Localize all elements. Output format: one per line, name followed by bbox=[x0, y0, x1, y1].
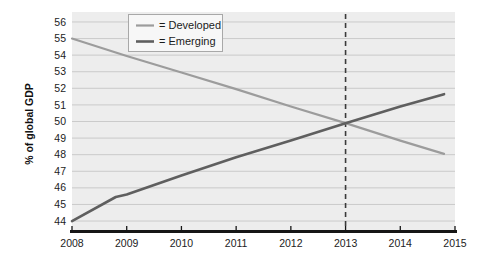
y-tick-47: 47 bbox=[54, 165, 66, 177]
y-tick-52: 52 bbox=[54, 82, 66, 94]
legend-label-developed: = Developed bbox=[159, 19, 221, 31]
x-tick-2012: 2012 bbox=[279, 237, 303, 249]
y-tick-55: 55 bbox=[54, 32, 66, 44]
x-tick-2015: 2015 bbox=[443, 237, 467, 249]
y-tick-44: 44 bbox=[54, 215, 66, 227]
x-tick-2010: 2010 bbox=[170, 237, 194, 249]
y-tick-54: 54 bbox=[54, 49, 66, 61]
y-tick-50: 50 bbox=[54, 115, 66, 127]
x-tick-2014: 2014 bbox=[389, 237, 413, 249]
line-chart: 44454647484950515253545556 2008200920102… bbox=[0, 0, 481, 262]
x-tick-2008: 2008 bbox=[60, 237, 84, 249]
y-tick-51: 51 bbox=[54, 99, 66, 111]
chart-legend: = Developed = Emerging bbox=[129, 15, 223, 52]
legend-label-emerging: = Emerging bbox=[159, 35, 216, 47]
y-tick-53: 53 bbox=[54, 65, 66, 77]
chart-container: 44454647484950515253545556 2008200920102… bbox=[0, 0, 481, 262]
y-axis-title: % of global GDP bbox=[23, 83, 35, 165]
y-axis-tick-labels: 44454647484950515253545556 bbox=[54, 16, 66, 227]
x-tick-2011: 2011 bbox=[225, 237, 248, 249]
y-tick-56: 56 bbox=[54, 16, 66, 28]
y-tick-49: 49 bbox=[54, 132, 66, 144]
y-tick-46: 46 bbox=[54, 181, 66, 193]
x-axis-tick-labels: 20082009201020112012201320142015 bbox=[60, 237, 467, 249]
y-tick-45: 45 bbox=[54, 198, 66, 210]
y-tick-48: 48 bbox=[54, 148, 66, 160]
x-tick-2009: 2009 bbox=[115, 237, 139, 249]
x-tick-2013: 2013 bbox=[334, 237, 358, 249]
